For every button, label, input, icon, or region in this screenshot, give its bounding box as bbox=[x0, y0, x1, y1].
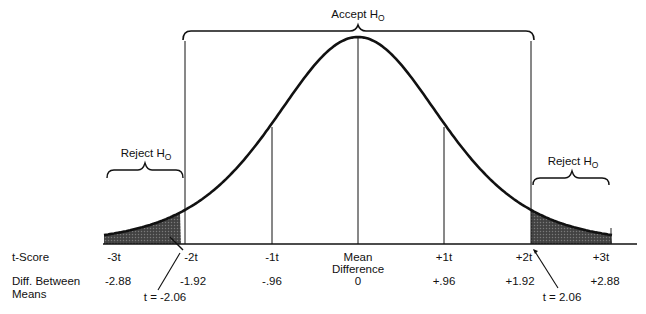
reject-left-brace bbox=[107, 163, 183, 178]
diff-value-minus-1-92: -1.92 bbox=[180, 275, 206, 288]
tick-plus-1t: +1t bbox=[436, 251, 452, 264]
diff-value-minus-2-88: -2.88 bbox=[105, 275, 131, 288]
tick-minus-2t: -2t bbox=[184, 251, 197, 264]
diff-row-label-line2: Means bbox=[12, 288, 47, 301]
t-score-row-label: t-Score bbox=[12, 251, 49, 264]
tick-plus-3t: +3t bbox=[593, 251, 609, 264]
diff-value-minus-0-96: -.96 bbox=[262, 275, 282, 288]
tick-plus-2t: +2t bbox=[516, 251, 532, 264]
diff-value-plus-0-96: +.96 bbox=[433, 275, 456, 288]
left-critical-pointer bbox=[158, 253, 180, 290]
diff-value-zero: 0 bbox=[355, 275, 361, 288]
diff-row-label-line1: Diff. Between bbox=[12, 275, 80, 288]
right-critical-pointer bbox=[534, 250, 558, 288]
accept-h0-label: Accept HO bbox=[331, 8, 384, 22]
tick-minus-1t: -1t bbox=[265, 251, 278, 264]
reject-right-brace bbox=[533, 171, 609, 185]
diff-value-plus-2-88: +2.88 bbox=[590, 275, 619, 288]
critical-value-left: t = -2.06 bbox=[144, 291, 187, 304]
diff-value-plus-1-92: +1.92 bbox=[505, 275, 534, 288]
reject-h0-right-label: Reject HO bbox=[548, 155, 599, 169]
t-distribution-diagram: Accept HO Reject HO Reject HO t-Score -3… bbox=[0, 0, 646, 314]
critical-value-right: t = 2.06 bbox=[543, 291, 582, 304]
reject-h0-left-label: Reject HO bbox=[121, 147, 172, 161]
tick-minus-3t: -3t bbox=[107, 251, 120, 264]
